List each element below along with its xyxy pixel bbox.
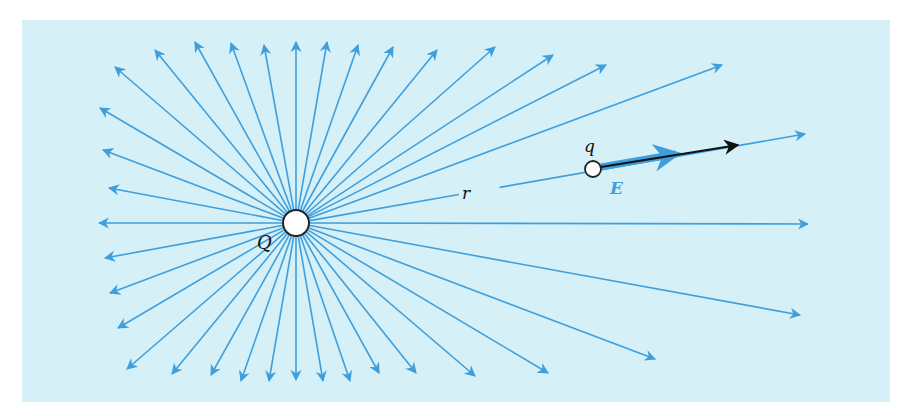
field-line	[115, 67, 285, 214]
field-line	[172, 234, 287, 374]
test-charge-label: q	[584, 136, 595, 156]
field-line	[269, 237, 294, 381]
field-line	[308, 230, 548, 373]
field-line	[109, 188, 282, 220]
field-line	[231, 43, 291, 210]
field-line	[303, 47, 393, 211]
field-label: E	[610, 178, 623, 198]
field-line	[100, 108, 284, 216]
distance-label: r	[462, 183, 470, 203]
field-line	[264, 45, 294, 209]
field-line	[310, 223, 808, 224]
field-line	[305, 234, 416, 373]
source-charge-Q	[283, 210, 309, 236]
field-line	[305, 50, 437, 212]
field-line	[307, 232, 475, 376]
test-charge-q	[585, 161, 601, 177]
field-lines	[99, 42, 808, 381]
field-line	[310, 226, 800, 315]
force-vector	[601, 145, 738, 167]
field-line	[308, 65, 606, 217]
field-line	[195, 42, 289, 211]
field-line	[298, 237, 323, 381]
field-line	[298, 42, 327, 209]
field-lines-diagram	[0, 0, 906, 416]
field-line	[105, 226, 282, 258]
source-charge-label: Q	[257, 232, 272, 253]
field-line	[155, 50, 287, 212]
field-line	[103, 150, 283, 218]
